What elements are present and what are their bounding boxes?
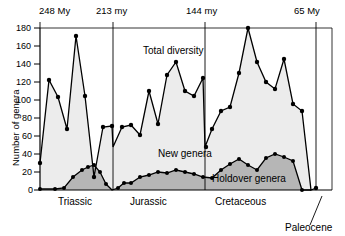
period-label-jurassic: Jurassic — [130, 196, 167, 207]
annotation-new-genera: New genera — [158, 148, 212, 159]
annotation-holdover-genera: Holdover genera — [212, 173, 286, 184]
y-tick-marks — [34, 28, 40, 190]
chart-figure: 248 My 213 my 144 my 65 My Number of gen… — [0, 0, 345, 236]
period-label-cretaceous: Cretaceous — [215, 196, 266, 207]
annotation-total-diversity: Total diversity — [143, 45, 204, 56]
chart-plot-area — [0, 0, 345, 236]
period-label-paleocene: Paleocene — [285, 222, 332, 233]
paleocene-leader-line — [310, 196, 322, 225]
period-label-triassic: Triassic — [58, 196, 92, 207]
